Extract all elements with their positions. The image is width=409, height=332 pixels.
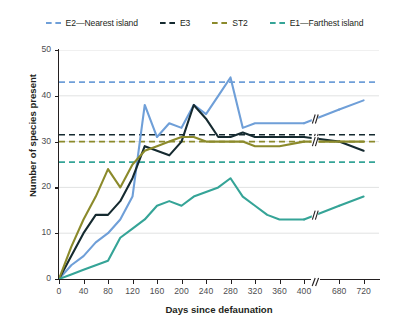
y-tick-label: 0 <box>29 273 51 283</box>
series-line-e2 <box>59 77 304 279</box>
x-axis-line <box>58 279 380 280</box>
x-tick <box>59 280 60 284</box>
legend-swatch-icon <box>212 22 227 24</box>
legend-label: E2—Nearest island <box>66 18 138 28</box>
x-tick <box>339 280 340 284</box>
chart-svg <box>59 50 379 279</box>
x-tick <box>280 280 281 284</box>
x-tick-label: 720 <box>349 286 379 296</box>
series-line-right-e2 <box>339 100 363 109</box>
legend-swatch-icon <box>270 22 285 24</box>
plot-area <box>59 50 379 279</box>
legend-swatch-icon <box>46 22 61 24</box>
legend-label: E3 <box>180 18 190 28</box>
x-tick <box>364 280 365 284</box>
series-line-right-e3 <box>339 142 363 151</box>
series-bridge-e1 <box>304 206 339 220</box>
series-line-e3 <box>59 105 304 279</box>
x-tick <box>84 280 85 284</box>
x-tick <box>304 280 305 284</box>
legend-item-e2: E2—Nearest island <box>46 18 138 28</box>
legend-label: ST2 <box>232 18 247 28</box>
x-tick <box>231 280 232 284</box>
axis-break-marker <box>312 113 318 124</box>
x-tick <box>157 280 158 284</box>
chart-figure: E2—Nearest islandE3ST2E1—Farthest island… <box>0 0 409 332</box>
x-tick <box>255 280 256 284</box>
axis-break-marker <box>312 136 318 147</box>
x-axis-break-marker <box>311 274 320 286</box>
legend-item-st2: ST2 <box>212 18 247 28</box>
series-line-e1 <box>59 178 304 279</box>
y-axis-title: Number of species present <box>27 41 38 231</box>
chart-legend: E2—Nearest islandE3ST2E1—Farthest island <box>0 14 409 32</box>
x-axis-title: Days since defaunation <box>59 304 379 315</box>
legend-swatch-icon <box>160 22 175 24</box>
series-bridge-e2 <box>304 110 339 124</box>
x-tick <box>206 280 207 284</box>
legend-item-e1: E1—Farthest island <box>270 18 364 28</box>
x-tick <box>182 280 183 284</box>
legend-label: E1—Farthest island <box>290 18 364 28</box>
series-line-st2 <box>59 137 304 279</box>
axis-break-marker <box>312 210 318 221</box>
x-tick <box>108 280 109 284</box>
x-tick <box>133 280 134 284</box>
legend-item-e3: E3 <box>160 18 190 28</box>
series-line-right-e1 <box>339 197 363 206</box>
